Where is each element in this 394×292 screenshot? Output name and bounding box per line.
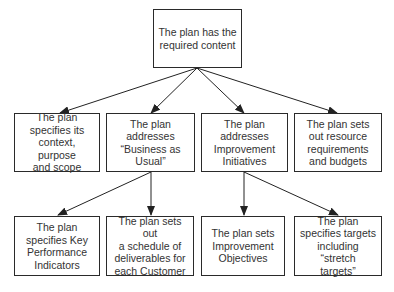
node-business-as-usual: The plan addresses “Business as Usual” <box>106 113 195 172</box>
edge-improvement-targets <box>244 172 338 215</box>
edge-root-improvement <box>197 68 244 113</box>
node-stretch-targets: The plan specifies targets including “st… <box>294 216 382 276</box>
edge-root-context <box>60 68 197 113</box>
root-node: The plan has the required content <box>153 9 242 68</box>
node-schedule-of-deliverables: The plan sets out a schedule of delivera… <box>106 216 194 276</box>
node-context-purpose-scope: The plan specifies its context, purpose … <box>14 113 100 172</box>
node-improvement-objectives: The plan sets Improvement Objectives <box>201 216 285 276</box>
node-key-performance-indicators: The plan specifies Key Performance Indic… <box>14 216 100 276</box>
requirements-tree-diagram: The plan has the required content The pl… <box>0 0 394 292</box>
node-improvement-initiatives: The plan addresses Improvement Initiativ… <box>201 113 288 172</box>
edge-root-bau <box>151 68 197 113</box>
edge-root-resources <box>197 68 337 113</box>
edge-bau-kpi <box>58 172 151 215</box>
node-resource-requirements: The plan sets out resource requirements … <box>294 113 382 172</box>
